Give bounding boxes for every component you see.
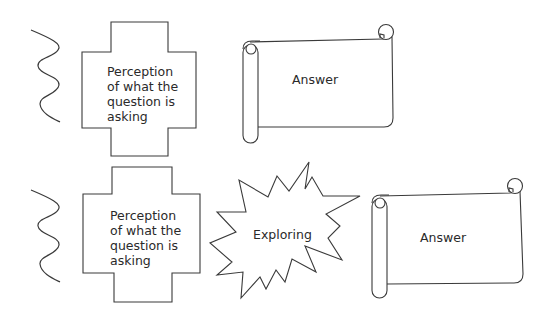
scroll-label-row1: Answer — [292, 72, 338, 87]
wavy-line-row2 — [31, 190, 60, 282]
wavy-line-row1 — [31, 30, 60, 122]
cross-label-row1: Perception of what the question is askin… — [107, 64, 178, 124]
starburst-label: Exploring — [253, 227, 312, 242]
diagram-canvas — [0, 0, 550, 314]
cross-label-row2: Perception of what the question is askin… — [110, 208, 181, 268]
scroll-label-row2: Answer — [420, 230, 466, 245]
